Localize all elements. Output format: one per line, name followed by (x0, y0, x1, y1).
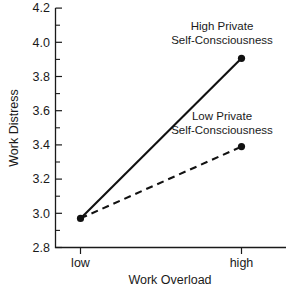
y-tick-label-3-0: 3.0 (33, 207, 50, 221)
x-axis-title: Work Overload (128, 273, 211, 287)
data-point-low-shared (77, 215, 84, 222)
x-axis-ticks (81, 248, 242, 255)
y-axis-title: Work Distress (7, 89, 21, 167)
series-line-high-private (81, 58, 242, 218)
y-tick-label-3-8: 3.8 (33, 70, 50, 84)
line-chart: 2.8 3.0 3.2 3.4 3.6 3.8 4.0 4.2 low high… (0, 0, 292, 299)
y-tick-label-4-0: 4.0 (33, 36, 50, 50)
series-label-high-private-line2: Self-Consciousness (171, 34, 273, 46)
y-tick-label-4-2: 4.2 (33, 1, 50, 15)
y-tick-label-2-8: 2.8 (33, 241, 50, 255)
chart-container: 2.8 3.0 3.2 3.4 3.6 3.8 4.0 4.2 low high… (0, 0, 292, 299)
series-line-low-private (81, 147, 242, 219)
x-tick-label-high: high (230, 256, 254, 270)
series-label-low-private-line1: Low Private (192, 110, 252, 122)
series-label-low-private-line2: Self-Consciousness (171, 124, 273, 136)
y-tick-label-3-2: 3.2 (33, 172, 50, 186)
x-tick-label-low: low (71, 256, 91, 270)
y-tick-label-3-4: 3.4 (33, 138, 50, 152)
data-point-low-private-high (238, 143, 245, 150)
y-axis-minor-ticks (56, 25, 61, 230)
data-point-high-private-high (238, 55, 245, 62)
series-label-high-private-line1: High Private (191, 20, 254, 32)
y-tick-label-3-6: 3.6 (33, 104, 50, 118)
